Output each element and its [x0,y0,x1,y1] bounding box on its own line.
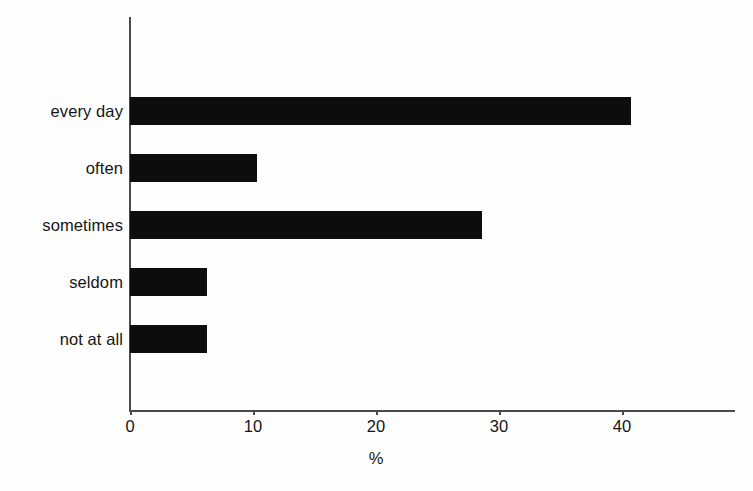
category-label-sometimes: sometimes [0,211,123,239]
bar-sometimes [130,211,482,239]
bar-seldom [130,268,207,296]
x-tick-mark-20 [376,410,378,415]
x-axis-title: % [336,449,416,468]
bar-rect [130,268,207,296]
bar-often [130,154,257,182]
bar-rect [130,154,257,182]
x-tick-mark-10 [253,410,255,415]
category-label-seldom: seldom [0,268,123,296]
x-tick-label-0: 0 [100,417,160,436]
x-tick-label-30: 30 [469,417,529,436]
x-tick-mark-30 [499,410,501,415]
x-tick-label-20: 20 [346,417,406,436]
bar-not-at-all [130,325,207,353]
category-label-every-day: every day [0,97,123,125]
x-tick-label-40: 40 [592,417,652,436]
x-tick-mark-40 [622,410,624,415]
category-label-not-at-all: not at all [0,325,123,353]
bar-rect [130,97,631,125]
x-tick-mark-0 [130,410,132,415]
category-label-often: often [0,154,123,182]
x-tick-label-10: 10 [223,417,283,436]
chart-figure: every dayoftensometimesseldomnot at all … [0,0,753,491]
bar-rect [130,325,207,353]
bar-rect [130,211,482,239]
bar-every-day [130,97,631,125]
